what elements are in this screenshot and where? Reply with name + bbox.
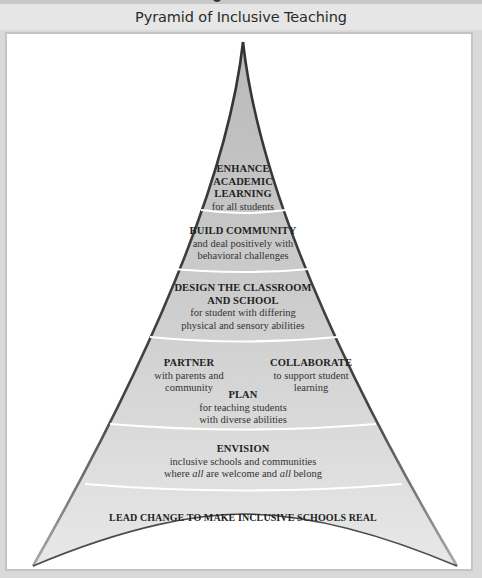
level-subtext-rich: where all are welcome and all belong bbox=[133, 468, 353, 481]
level-heading: BUILD COMMUNITY bbox=[163, 225, 323, 238]
level-heading: ENVISION bbox=[133, 443, 353, 456]
level-subtext: to support student bbox=[256, 370, 366, 383]
level-design-classroom: DESIGN THE CLASSROOM AND SCHOOL for stud… bbox=[143, 282, 343, 332]
level-envision: ENVISION inclusive schools and communiti… bbox=[133, 443, 353, 481]
level-heading: AND SCHOOL bbox=[143, 295, 343, 308]
level-build-community: BUILD COMMUNITY and deal positively with… bbox=[163, 225, 323, 263]
level-heading: DESIGN THE CLASSROOM bbox=[143, 282, 343, 295]
level-subtext: and deal positively with bbox=[163, 238, 323, 251]
level-heading: LEAD CHANGE TO MAKE INCLUSIVE SCHOOLS RE… bbox=[93, 512, 393, 525]
level-subtext: with diverse abilities bbox=[178, 414, 308, 427]
level-plan: PLAN for teaching students with diverse … bbox=[178, 389, 308, 427]
level-subtext: for teaching students bbox=[178, 402, 308, 415]
level-heading: PLAN bbox=[178, 389, 308, 402]
level-heading: ENHANCE bbox=[183, 163, 303, 176]
level-heading: PARTNER bbox=[134, 357, 244, 370]
level-heading: LEARNING bbox=[183, 188, 303, 201]
level-subtext: inclusive schools and communities bbox=[133, 456, 353, 469]
level-subtext: behavioral challenges bbox=[163, 250, 323, 263]
level-lead-change: LEAD CHANGE TO MAKE INCLUSIVE SCHOOLS RE… bbox=[93, 512, 393, 525]
level-subtext: with parents and bbox=[134, 370, 244, 383]
level-enhance-academic-learning: ENHANCE ACADEMIC LEARNING for all studen… bbox=[183, 163, 303, 213]
level-subtext: for all students bbox=[183, 201, 303, 214]
level-subtext: physical and sensory abilities bbox=[143, 320, 343, 333]
level-heading: COLLABORATE bbox=[256, 357, 366, 370]
level-heading: ACADEMIC bbox=[183, 176, 303, 189]
level-subtext: for student with differing bbox=[143, 307, 343, 320]
